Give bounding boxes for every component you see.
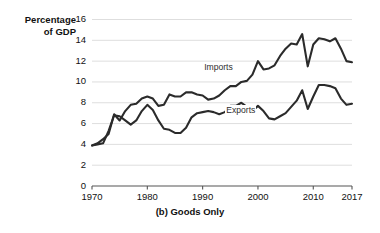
chart-figure: Percentage of GDP (b) Goods Only 0246810… [0,0,380,233]
y-axis-tick-label: 0 [66,181,86,191]
y-axis-tick-label: 2 [66,160,86,170]
y-axis-tick-label: 4 [66,139,86,149]
chart-caption: (b) Goods Only [0,206,380,217]
y-axis-tick-label: 16 [66,14,86,24]
y-axis-tick-label: 8 [66,97,86,107]
y-axis-tick-label: 14 [66,35,86,45]
y-axis-tick-label: 10 [66,76,86,86]
x-axis-tick-label: 1970 [72,191,112,202]
series-label-exports: Exports [225,105,256,115]
x-axis-tick-label: 2010 [293,191,333,202]
series-label-imports: Imports [203,62,234,72]
x-axis-tick-label: 1990 [183,191,223,202]
y-axis-tick-label: 12 [66,56,86,66]
y-axis-tick-label: 6 [66,118,86,128]
x-axis-tick-label: 1980 [127,191,167,202]
x-axis-tick-label: 2017 [332,191,372,202]
x-axis-tick-label: 2000 [238,191,278,202]
